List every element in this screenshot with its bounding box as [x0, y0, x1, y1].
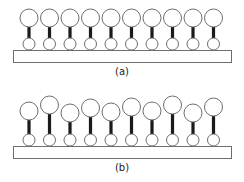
molecule-unit [164, 96, 182, 146]
head-group-circle [123, 98, 141, 116]
chain-stick [130, 27, 133, 38]
molecule-unit [123, 98, 141, 146]
head-group-circle [20, 102, 38, 120]
molecule-unit [20, 102, 38, 146]
anchor-group-circle [105, 134, 117, 146]
chain-stick [27, 120, 30, 134]
monolayer-diagram [0, 0, 244, 182]
head-group-circle [164, 96, 182, 114]
anchor-group-circle [23, 134, 35, 146]
anchor-group-circle [105, 38, 117, 50]
head-group-circle [102, 103, 120, 121]
chain-stick [109, 27, 112, 38]
head-group-circle [123, 9, 141, 27]
molecule-unit [102, 9, 120, 50]
head-group-circle [184, 9, 202, 27]
molecule-unit [41, 96, 59, 146]
chain-stick [68, 122, 71, 134]
anchor-group-circle [23, 38, 35, 50]
head-group-circle [61, 9, 79, 27]
substrate [14, 51, 232, 63]
chain-stick [89, 117, 92, 134]
head-group-circle [184, 104, 202, 122]
head-group-circle [205, 98, 223, 116]
head-group-circle [41, 96, 59, 114]
anchor-group-circle [126, 134, 138, 146]
chain-stick [48, 114, 51, 134]
head-group-circle [41, 9, 59, 27]
molecule-unit [184, 9, 202, 50]
chain-stick [171, 27, 174, 38]
chain-stick [27, 27, 30, 38]
anchor-group-circle [208, 134, 220, 146]
panel-b [14, 96, 232, 159]
chain-stick [68, 27, 71, 38]
chain-stick [212, 116, 215, 134]
head-group-circle [82, 9, 100, 27]
molecule-unit [82, 99, 100, 146]
molecule-unit [205, 98, 223, 146]
chain-stick [48, 27, 51, 38]
head-group-circle [20, 9, 38, 27]
molecule-unit [61, 9, 79, 50]
anchor-group-circle [208, 38, 220, 50]
anchor-group-circle [146, 38, 158, 50]
anchor-group-circle [146, 134, 158, 146]
molecule-unit [61, 104, 79, 146]
chain-stick [109, 121, 112, 134]
chain-stick [150, 120, 153, 134]
chain-stick [150, 27, 153, 38]
anchor-group-circle [126, 38, 138, 50]
molecule-unit [184, 104, 202, 146]
head-group-circle [164, 9, 182, 27]
molecule-unit [102, 103, 120, 146]
anchor-group-circle [167, 38, 179, 50]
anchor-group-circle [44, 38, 56, 50]
chain-stick [89, 27, 92, 38]
molecule-unit [205, 9, 223, 50]
anchor-group-circle [85, 38, 97, 50]
anchor-group-circle [64, 38, 76, 50]
head-group-circle [61, 104, 79, 122]
molecule-unit [123, 9, 141, 50]
panel-b-caption: (b) [0, 162, 244, 173]
molecule-unit [41, 9, 59, 50]
anchor-group-circle [187, 38, 199, 50]
head-group-circle [143, 9, 161, 27]
panel-a-caption: (a) [0, 66, 244, 77]
anchor-group-circle [187, 134, 199, 146]
panel-a [14, 9, 232, 63]
molecule-unit [143, 102, 161, 146]
anchor-group-circle [64, 134, 76, 146]
molecule-unit [143, 9, 161, 50]
head-group-circle [82, 99, 100, 117]
chain-stick [191, 122, 194, 134]
molecule-unit [20, 9, 38, 50]
chain-stick [212, 27, 215, 38]
chain-stick [171, 114, 174, 134]
head-group-circle [102, 9, 120, 27]
substrate [14, 147, 232, 159]
anchor-group-circle [44, 134, 56, 146]
molecule-unit [164, 9, 182, 50]
chain-stick [191, 27, 194, 38]
anchor-group-circle [167, 134, 179, 146]
head-group-circle [205, 9, 223, 27]
molecule-unit [82, 9, 100, 50]
chain-stick [130, 116, 133, 134]
anchor-group-circle [85, 134, 97, 146]
head-group-circle [143, 102, 161, 120]
